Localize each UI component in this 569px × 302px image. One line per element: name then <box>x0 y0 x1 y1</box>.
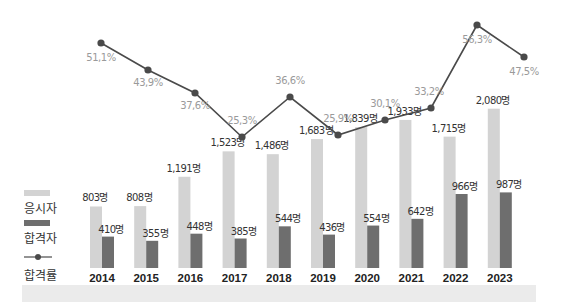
label-applicants-2016: 1,191명 <box>166 163 200 174</box>
rate-label-2015: 43,9% <box>133 77 162 88</box>
legend-label-passers: 합격자 <box>24 229 84 246</box>
label-applicants-2018: 1,486명 <box>255 140 289 151</box>
bar-passers-2021 <box>411 219 423 268</box>
rate-point-2020 <box>381 116 388 123</box>
label-applicants-2014: 803명 <box>82 192 108 203</box>
rate-label-2016: 37,6% <box>180 100 209 111</box>
x-axis-labels: 2014201520162017201820192020202120222023 <box>89 272 512 284</box>
label-passers-2015: 355명 <box>142 228 168 239</box>
bar-applicants-2017 <box>223 151 235 268</box>
rate-point-2017 <box>238 133 245 140</box>
rate-label-2020: 30,1% <box>370 98 399 109</box>
rate-label-2018: 36,6% <box>275 75 304 86</box>
bar-passers-2018 <box>279 226 291 268</box>
x-tick-2014: 2014 <box>89 272 115 284</box>
rate-label-2021: 33,2% <box>414 86 443 97</box>
rate-label-2014: 51,1% <box>86 52 115 63</box>
bar-applicants-2020 <box>355 127 367 268</box>
label-passers-2019: 436명 <box>319 222 345 233</box>
bar-passers-2017 <box>235 239 247 268</box>
rate-point-2016 <box>191 89 198 96</box>
x-tick-2017: 2017 <box>222 272 248 284</box>
rate-line-group: 51,1%43,9%37,6%25,3%36,6%25,9%30,1%33,2%… <box>86 21 538 140</box>
label-applicants-2015: 808명 <box>126 192 152 203</box>
bar-passers-2020 <box>367 226 379 268</box>
passers-swatch-icon <box>24 220 50 226</box>
rate-point-2023 <box>520 53 527 60</box>
label-passers-2021: 642명 <box>408 206 434 217</box>
x-tick-2018: 2018 <box>266 272 292 284</box>
label-passers-2014: 410명 <box>98 224 124 235</box>
bar-applicants-2021 <box>399 120 411 268</box>
bar-passers-2016 <box>190 234 202 268</box>
bar-applicants-2019 <box>311 139 323 268</box>
rate-point-2018 <box>286 93 293 100</box>
x-tick-2019: 2019 <box>310 272 336 284</box>
bar-group: 803명410명808명355명1,191명448명1,523명385명1,48… <box>82 95 521 268</box>
rate-label-2017: 25,3% <box>227 115 256 126</box>
x-tick-2022: 2022 <box>443 272 469 284</box>
legend-item-applicants: 응시자 <box>24 190 84 216</box>
chart: 803명410명808명355명1,191명448명1,523명385명1,48… <box>0 0 569 302</box>
bar-applicants-2018 <box>267 154 279 268</box>
rate-point-2015 <box>144 66 151 73</box>
rate-line <box>101 25 524 137</box>
rate-label-2022: 56,3% <box>462 34 491 45</box>
x-tick-2021: 2021 <box>399 272 425 284</box>
bar-applicants-2022 <box>444 137 456 268</box>
applicants-swatch-icon <box>24 190 50 196</box>
label-passers-2018: 544명 <box>275 213 301 224</box>
legend-item-passers: 합격자 <box>24 220 84 246</box>
x-tick-2020: 2020 <box>354 272 380 284</box>
bar-applicants-2014 <box>90 206 102 268</box>
rate-point-2019 <box>334 131 341 138</box>
legend-item-rate: 합격률 <box>24 247 84 283</box>
bottom-band <box>22 285 536 302</box>
rate-label-2023: 47,5% <box>509 66 538 77</box>
legend-label-applicants: 응시자 <box>24 199 84 216</box>
x-tick-2023: 2023 <box>487 272 513 284</box>
label-passers-2020: 554명 <box>363 213 389 224</box>
rate-line-marker-icon <box>24 253 52 261</box>
label-applicants-2023: 2,080명 <box>476 95 510 106</box>
bar-passers-2014 <box>102 237 114 268</box>
rate-label-2019: 25,9% <box>323 113 352 124</box>
rate-point-2022 <box>473 21 480 28</box>
bar-passers-2019 <box>323 235 335 268</box>
label-passers-2023: 987명 <box>496 179 522 190</box>
label-passers-2022: 966명 <box>452 181 478 192</box>
x-tick-2016: 2016 <box>178 272 204 284</box>
label-passers-2016: 448명 <box>187 221 213 232</box>
rate-point-2021 <box>427 104 434 111</box>
bar-passers-2022 <box>456 194 468 268</box>
legend-label-rate: 합격률 <box>24 266 84 283</box>
x-tick-2015: 2015 <box>133 272 159 284</box>
bar-passers-2023 <box>500 192 512 268</box>
bar-passers-2015 <box>146 241 158 268</box>
rate-point-2014 <box>97 39 104 46</box>
label-passers-2017: 385명 <box>231 226 257 237</box>
label-applicants-2022: 1,715명 <box>432 123 466 134</box>
